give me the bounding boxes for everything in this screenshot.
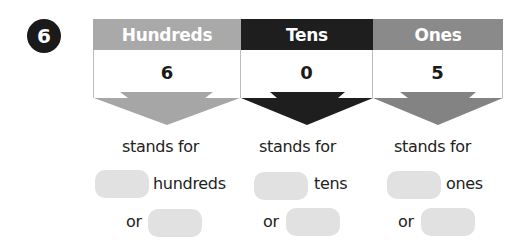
blank-hundreds-value[interactable]	[148, 209, 202, 237]
blank-tens-count[interactable]	[254, 172, 308, 200]
or-hundreds: or	[126, 212, 142, 232]
unit-hundreds: hundreds	[153, 174, 226, 194]
arrow-hundreds-icon	[94, 92, 240, 125]
stands-for-ones: stands for	[394, 137, 471, 157]
arrow-ones-icon	[373, 92, 503, 125]
blank-hundreds-count[interactable]	[95, 170, 149, 198]
arrow-tens-icon	[241, 92, 373, 125]
stands-for-hundreds: stands for	[122, 137, 199, 157]
stands-for-tens: stands for	[259, 137, 336, 157]
or-tens: or	[263, 212, 279, 232]
or-ones: or	[398, 212, 414, 232]
blank-ones-value[interactable]	[421, 208, 475, 236]
unit-ones: ones	[446, 174, 483, 194]
blank-tens-value[interactable]	[286, 208, 340, 236]
unit-tens: tens	[314, 174, 347, 194]
blank-ones-count[interactable]	[387, 171, 441, 199]
